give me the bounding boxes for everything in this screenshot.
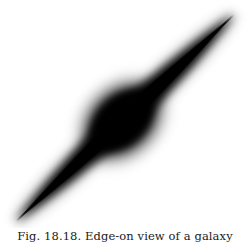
galaxy-image [0,0,250,228]
dust-lane [18,18,231,220]
galaxy [0,0,250,228]
figure-caption: Fig. 18.18. Edge-on view of a galaxy [0,229,250,243]
